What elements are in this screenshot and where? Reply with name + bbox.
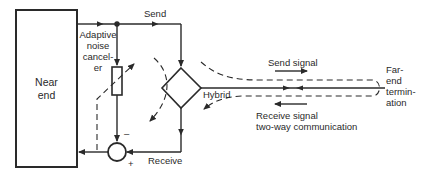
far-end-label-line1: Far-: [386, 64, 416, 75]
summer-junction: [108, 143, 126, 161]
summer-minus-sign: –: [124, 128, 129, 139]
far-end-label-line3: termin-: [386, 86, 416, 97]
echo-canceller-diagram: Near end Adaptive noise cancel- er Send …: [0, 0, 427, 177]
far-end-label: Far- end termin- ation: [386, 64, 416, 108]
far-end-label-line2: end: [386, 75, 416, 86]
hybrid-label: Hybrid: [203, 89, 230, 100]
canceller-label-line2: noise: [77, 40, 119, 51]
near-end-label-line2: end: [16, 89, 77, 102]
summer-plus-sign: +: [128, 158, 134, 169]
send-label: Send: [144, 8, 166, 19]
receive-label: Receive: [148, 155, 182, 166]
near-end-label: Near end: [16, 76, 77, 102]
canceller-label-line1: Adaptive: [77, 29, 119, 40]
canceller-label-line3: cancel-: [77, 51, 119, 62]
far-end-echo-dashed-path: [201, 62, 380, 109]
receive-path: [79, 108, 181, 152]
receive-signal-label-line1: Receive signal: [256, 110, 357, 121]
canceller-label-line4: er: [77, 62, 119, 73]
send-signal-label: Send signal: [268, 57, 318, 68]
far-end-label-line4: ation: [386, 97, 416, 108]
near-end-label-line1: Near: [16, 76, 77, 89]
receive-signal-label-line2: two-way communication: [256, 121, 357, 132]
hybrid-diamond: [162, 68, 201, 108]
receive-signal-label: Receive signal two-way communication: [256, 110, 357, 132]
canceller-label: Adaptive noise cancel- er: [77, 29, 119, 73]
